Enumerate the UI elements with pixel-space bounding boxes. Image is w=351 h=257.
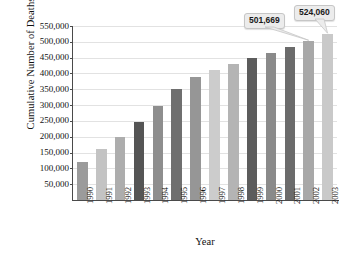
bar[interactable]: [247, 58, 258, 200]
y-axis-tick-label: 450,000: [22, 53, 69, 62]
y-axis-tick-label: 50,000: [22, 180, 69, 189]
x-axis-tick-label: 2001: [293, 187, 302, 204]
bar[interactable]: [209, 70, 220, 200]
x-axis-tick-label: 1996: [199, 187, 208, 204]
x-axis-tick-labels: 1990199119921993199419951996199719981999…: [73, 200, 337, 240]
bar[interactable]: [153, 106, 164, 200]
bar[interactable]: [171, 89, 182, 200]
data-callout-label: 524,060: [294, 5, 335, 21]
chart-figure: Cumulative Number of Deaths 550,000500,0…: [0, 0, 351, 257]
bar[interactable]: [266, 53, 277, 200]
plot-area: [73, 26, 337, 200]
bar[interactable]: [228, 64, 239, 200]
x-axis-tick-label: 1990: [86, 187, 95, 204]
x-axis-tick-label: 1994: [161, 187, 170, 204]
bar[interactable]: [190, 77, 201, 200]
bar[interactable]: [322, 34, 333, 200]
bar[interactable]: [303, 41, 314, 200]
y-axis-tick-label: 500,000: [22, 37, 69, 46]
x-axis-tick-label: 1998: [237, 187, 246, 204]
y-axis-tick-label: 350,000: [22, 85, 69, 94]
x-axis-title: Year: [73, 236, 337, 247]
x-axis-tick-label: 1993: [143, 187, 152, 204]
y-axis-tick-label: 200,000: [22, 132, 69, 141]
y-axis-tick-label: 550,000: [22, 22, 69, 31]
bar[interactable]: [285, 47, 296, 200]
x-axis-tick-label: 1999: [256, 187, 265, 204]
y-axis-tick-label: 150,000: [22, 148, 69, 157]
x-axis-tick-label: 1997: [218, 187, 227, 204]
y-axis-tick-label: 250,000: [22, 116, 69, 125]
x-axis-tick-label: 1992: [124, 187, 133, 204]
y-axis-tick-label: 100,000: [22, 164, 69, 173]
data-callout-label: 501,669: [244, 13, 285, 29]
y-axis-tick-labels: 550,000500,000450,000400,000350,000300,0…: [22, 0, 69, 257]
bar-series: [73, 26, 337, 200]
x-axis-tick-label: 1995: [180, 187, 189, 204]
x-axis-tick-label: 2000: [275, 187, 284, 204]
x-axis-tick-label: 2003: [331, 187, 340, 204]
x-axis-tick-label: 1991: [105, 187, 114, 204]
y-axis-tick-label: 400,000: [22, 69, 69, 78]
y-axis-tick-label: 300,000: [22, 101, 69, 110]
x-axis-tick-label: 2002: [312, 187, 321, 204]
